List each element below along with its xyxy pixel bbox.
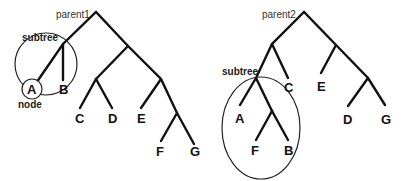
- leaf-C: C: [75, 111, 85, 126]
- leaf-E: E: [137, 111, 146, 126]
- tree-parent2: parent2 subtree A F B C E D G: [222, 9, 391, 179]
- leaf-F: F: [156, 144, 164, 159]
- leaf-F2: F: [251, 143, 259, 158]
- parent1-label: parent1: [56, 9, 90, 20]
- parent2-label: parent2: [262, 9, 296, 20]
- leaf-B2: B: [284, 143, 293, 158]
- subtree2-label: subtree: [222, 66, 259, 77]
- leaf-C2: C: [284, 80, 294, 95]
- subtree1-label: subtree: [22, 32, 59, 43]
- leaf-G2: G: [381, 112, 391, 127]
- leaf-A2: A: [235, 111, 245, 126]
- leaf-A: A: [27, 82, 37, 97]
- tree-parent1: parent1 subtree node A B C D E F G: [15, 9, 200, 159]
- leaf-E2: E: [317, 79, 326, 94]
- leaf-B: B: [59, 82, 68, 97]
- node-label: node: [18, 99, 42, 110]
- leaf-D2: D: [343, 112, 352, 127]
- leaf-G: G: [190, 144, 200, 159]
- leaf-D: D: [108, 111, 117, 126]
- crossover-diagram: parent1 subtree node A B C D E F G paren…: [0, 0, 406, 181]
